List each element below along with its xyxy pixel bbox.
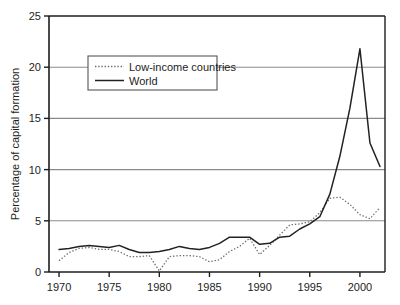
- x-tick-label-1995: 1995: [298, 281, 322, 293]
- y-tick-label-0: 0: [35, 266, 41, 278]
- x-tick-label-2000: 2000: [348, 281, 372, 293]
- x-tick-label-1990: 1990: [247, 281, 271, 293]
- y-tick-label-20: 20: [29, 61, 41, 73]
- y-tick-label-5: 5: [35, 215, 41, 227]
- x-tick-label-1980: 1980: [147, 281, 171, 293]
- y-tick-label-15: 15: [29, 112, 41, 124]
- y-tick-label-10: 10: [29, 164, 41, 176]
- chart-legend: Low-income countries World: [88, 56, 236, 90]
- legend-label-world: World: [129, 75, 158, 87]
- y-tick-label-25: 25: [29, 10, 41, 22]
- line-chart: 0510152025 1970197519801985199019952000 …: [0, 0, 400, 305]
- chart-container: 0510152025 1970197519801985199019952000 …: [0, 0, 400, 305]
- x-tick-label-1975: 1975: [97, 281, 121, 293]
- legend-label-low-income-countries: Low-income countries: [129, 61, 236, 73]
- y-axis-title: Percentage of capital formation: [9, 68, 21, 220]
- x-tick-label-1970: 1970: [47, 281, 71, 293]
- x-tick-label-1985: 1985: [197, 281, 221, 293]
